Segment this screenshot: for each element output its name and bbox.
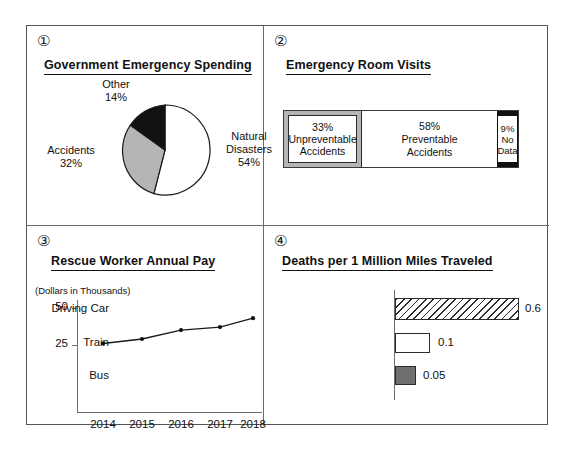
bar-segment-unpreventable-line1: Unpreventable bbox=[288, 133, 356, 145]
figure-frame: ① Government Emergency Spending Other 14… bbox=[26, 25, 548, 425]
panel-number-3: ③ bbox=[37, 234, 50, 249]
panel-title-3: Rescue Worker Annual Pay bbox=[51, 254, 215, 271]
panel-title-4: Deaths per 1 Million Miles Traveled bbox=[282, 254, 493, 271]
line-chart: 50 25 2014 2015 2016 2017 2018 bbox=[35, 298, 257, 418]
bar-value-train: 0.1 bbox=[438, 336, 454, 348]
horizontal-bar-chart: Driving Car 0.6 Train 0.1 Bus 0.05 bbox=[264, 286, 549, 406]
pie-label-accidents: Accidents 32% bbox=[33, 144, 109, 170]
pie-chart-svg bbox=[119, 104, 211, 196]
panel-number-4: ④ bbox=[274, 234, 287, 249]
line-chart-xtick-2016: 2016 bbox=[168, 418, 194, 430]
bar-driving-car bbox=[395, 298, 519, 320]
pie-label-accidents-name: Accidents bbox=[47, 144, 95, 156]
line-chart-point-2016 bbox=[179, 328, 183, 332]
line-chart-units-note: (Dollars in Thousands) bbox=[35, 285, 130, 296]
pie-label-accidents-value: 32% bbox=[60, 157, 82, 169]
line-chart-xtick-2018: 2018 bbox=[240, 418, 266, 430]
line-chart-series-svg bbox=[35, 298, 257, 418]
bar-segment-no-data: 9% No Data bbox=[497, 111, 518, 167]
bar-segment-preventable-pct: 58% bbox=[419, 120, 440, 132]
line-chart-point-2017 bbox=[218, 325, 222, 329]
stacked-bar-chart: 33% Unpreventable Accidents 58% Preventa… bbox=[283, 110, 519, 168]
pie-chart: Other 14% Accidents 32% Natural Disaster… bbox=[119, 104, 211, 196]
bar-segment-unpreventable-label: 33% Unpreventable Accidents bbox=[288, 115, 357, 163]
panel-title-2: Emergency Room Visits bbox=[286, 58, 431, 75]
pie-label-other: Other 14% bbox=[81, 78, 151, 104]
panel-rescue-worker-annual-pay: ③ Rescue Worker Annual Pay (Dollars in T… bbox=[27, 226, 263, 426]
bar-segment-preventable-line2: Accidents bbox=[407, 146, 453, 158]
pie-label-other-name: Other bbox=[102, 78, 130, 90]
bar-segment-preventable-accidents: 58% Preventable Accidents bbox=[361, 111, 497, 167]
pie-label-natural-name-1: Natural bbox=[231, 130, 266, 142]
bar-segment-unpreventable-accidents: 33% Unpreventable Accidents bbox=[284, 111, 361, 167]
panel-emergency-room-visits: ② Emergency Room Visits 33% Unpreventabl… bbox=[264, 26, 549, 225]
bar-segment-no-data-pct: 9% bbox=[501, 123, 515, 134]
bar-bus bbox=[395, 366, 416, 385]
line-chart-point-2015 bbox=[140, 337, 144, 341]
bar-train bbox=[395, 333, 430, 353]
line-chart-series-path bbox=[103, 318, 253, 343]
bar-segment-unpreventable-line2: Accidents bbox=[300, 145, 346, 157]
bar-segment-no-data-line2: Data bbox=[497, 145, 517, 156]
line-chart-xtick-2015: 2015 bbox=[129, 418, 155, 430]
line-chart-xtick-2017: 2017 bbox=[207, 418, 233, 430]
bar-segment-preventable-line1: Preventable bbox=[402, 133, 458, 145]
bar-label-train: Train bbox=[83, 336, 109, 348]
bar-value-driving-car: 0.6 bbox=[525, 302, 541, 314]
panel-title-1: Government Emergency Spending bbox=[44, 58, 252, 75]
bar-segment-preventable-label: 58% Preventable Accidents bbox=[402, 120, 458, 159]
panel-number-1: ① bbox=[37, 34, 50, 49]
bar-segment-no-data-label: 9% No Data bbox=[498, 116, 517, 162]
bar-label-driving-car: Driving Car bbox=[51, 302, 109, 314]
bar-label-bus: Bus bbox=[89, 369, 109, 381]
bar-segment-no-data-line1: No bbox=[501, 134, 513, 145]
bar-value-bus: 0.05 bbox=[423, 369, 445, 381]
pie-label-other-value: 14% bbox=[105, 91, 127, 103]
pie-label-natural-value: 54% bbox=[238, 156, 260, 168]
line-chart-xtick-2014: 2014 bbox=[90, 418, 116, 430]
line-chart-point-2018 bbox=[251, 316, 255, 320]
panel-government-emergency-spending: ① Government Emergency Spending Other 14… bbox=[27, 26, 263, 225]
panel-number-2: ② bbox=[274, 34, 287, 49]
bar-segment-unpreventable-pct: 33% bbox=[312, 121, 333, 133]
panel-deaths-per-million-miles: ④ Deaths per 1 Million Miles Traveled Dr… bbox=[264, 226, 549, 426]
